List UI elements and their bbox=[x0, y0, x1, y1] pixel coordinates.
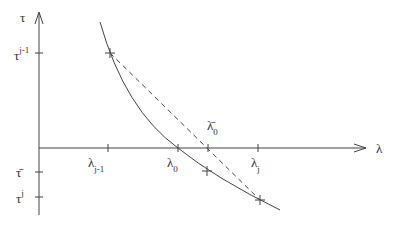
cross-marker-icon bbox=[255, 195, 265, 205]
label-lambda-j: λj bbox=[251, 155, 260, 174]
label-tau-j: τj bbox=[16, 188, 24, 206]
diagram-canvas: τ λ τj-1 τ̄ τj λj-1 λ0 λ̄0 λj bbox=[0, 0, 401, 225]
cross-marker-icon bbox=[202, 166, 212, 176]
curve bbox=[100, 22, 280, 210]
label-lambda-bar-0: λ̄0 bbox=[207, 118, 218, 137]
label-lambda-j-1: λj-1 bbox=[88, 155, 104, 174]
label-tau-j-1: τj-1 bbox=[14, 45, 29, 63]
y-axis-label: τ bbox=[20, 10, 25, 25]
secant-dashed-line bbox=[110, 53, 260, 200]
label-lambda-0: λ0 bbox=[167, 155, 178, 174]
label-tau-bar: τ̄ bbox=[16, 165, 23, 180]
x-axis-label: λ bbox=[376, 141, 383, 156]
